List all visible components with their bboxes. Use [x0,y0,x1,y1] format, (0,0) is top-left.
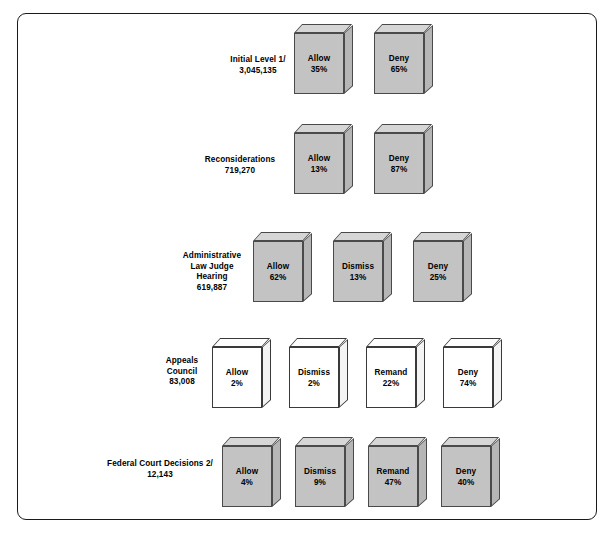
outcome-percent: 47% [385,477,402,488]
outcome-percent: 35% [311,64,328,75]
outcome-box: Allow2% [212,338,262,408]
box-front-face: Remand22% [366,347,416,408]
box-front-face: Deny87% [374,133,424,194]
outcome-box: Deny25% [413,232,463,302]
box-front-face: Allow2% [212,347,262,408]
outcome-label: Dismiss [298,367,330,378]
outcome-percent: 9% [314,477,326,488]
box-top-face [374,24,432,33]
box-front-face: Remand47% [368,446,418,507]
box-top-face [253,232,311,241]
box-front-face: Deny74% [443,347,493,408]
outcome-label: Deny [389,153,409,164]
box-front-face: Dismiss2% [289,347,339,408]
box-top-face [413,232,471,241]
box-side-face [491,438,500,507]
stage-label-line: 3,045,135 [0,66,516,77]
box-front-face: Deny40% [441,446,491,507]
outcome-label: Allow [236,466,258,477]
outcome-box: Deny87% [374,124,424,194]
box-front-face: Deny65% [374,33,424,94]
outcome-box: Deny65% [374,24,424,94]
box-side-face [303,233,312,302]
outcome-label: Deny [428,261,448,272]
box-side-face [345,438,354,507]
outcome-percent: 62% [270,272,287,283]
outcome-percent: 65% [391,64,408,75]
outcome-percent: 40% [458,477,475,488]
box-side-face [262,339,271,408]
box-top-face [366,338,424,347]
box-side-face [424,125,433,194]
outcome-label: Remand [375,367,408,378]
box-side-face [272,438,281,507]
box-front-face: Allow35% [294,33,344,94]
box-side-face [424,25,433,94]
box-side-face [418,438,427,507]
box-top-face [294,124,352,133]
outcome-box: Allow4% [222,437,272,507]
outcome-percent: 13% [350,272,367,283]
outcome-label: Deny [389,53,409,64]
box-front-face: Dismiss13% [333,241,383,302]
box-top-face [374,124,432,133]
outcome-box: Remand47% [368,437,418,507]
box-front-face: Allow62% [253,241,303,302]
outcome-percent: 13% [311,164,328,175]
outcome-box: Allow62% [253,232,303,302]
box-top-face [443,338,501,347]
outcome-label: Remand [377,466,410,477]
box-front-face: Allow13% [294,133,344,194]
outcome-label: Allow [267,261,289,272]
outcome-percent: 25% [430,272,447,283]
box-side-face [416,339,425,408]
box-top-face [368,437,426,446]
box-side-face [463,233,472,302]
box-side-face [383,233,392,302]
outcome-box: Dismiss13% [333,232,383,302]
outcome-label: Dismiss [304,466,336,477]
box-top-face [212,338,270,347]
outcome-box: Dismiss9% [295,437,345,507]
box-top-face [441,437,499,446]
outcome-label: Allow [226,367,248,378]
outcome-box: Deny40% [441,437,491,507]
outcome-box: Deny74% [443,338,493,408]
outcome-label: Allow [308,53,330,64]
outcome-percent: 74% [460,378,477,389]
stage-label: Initial Level 1/3,045,135 [0,55,516,76]
box-side-face [344,125,353,194]
box-front-face: Deny25% [413,241,463,302]
box-side-face [339,339,348,408]
outcome-box: Allow13% [294,124,344,194]
outcome-label: Allow [308,153,330,164]
outcome-percent: 4% [241,477,253,488]
outcome-box: Allow35% [294,24,344,94]
outcome-box: Remand22% [366,338,416,408]
outcome-label: Deny [458,367,478,378]
box-front-face: Allow4% [222,446,272,507]
outcome-label: Deny [456,466,476,477]
stage-label-line: Initial Level 1/ [0,55,516,66]
outcome-percent: 2% [231,378,243,389]
box-side-face [344,25,353,94]
box-top-face [222,437,280,446]
box-top-face [289,338,347,347]
box-side-face [493,339,502,408]
outcome-percent: 87% [391,164,408,175]
box-top-face [333,232,391,241]
box-top-face [294,24,352,33]
outcome-box: Dismiss2% [289,338,339,408]
outcome-percent: 22% [383,378,400,389]
outcome-label: Dismiss [342,261,374,272]
box-top-face [295,437,353,446]
box-front-face: Dismiss9% [295,446,345,507]
outcome-percent: 2% [308,378,320,389]
